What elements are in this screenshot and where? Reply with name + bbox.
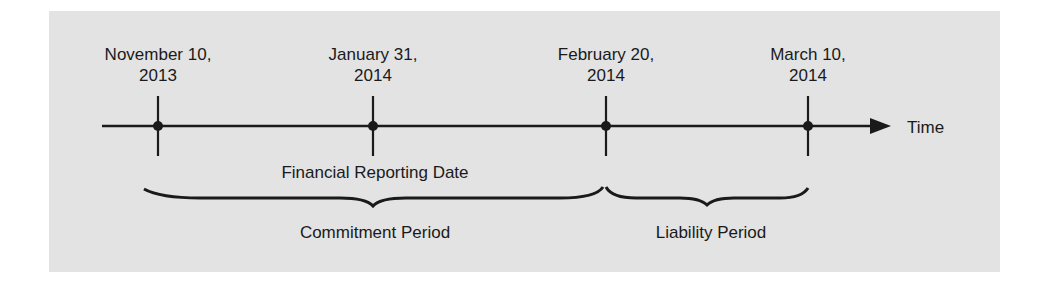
axis-label-time: Time — [907, 117, 944, 138]
tick-jan-31-2014 — [368, 96, 378, 156]
date-label: November 10, 2013 — [105, 44, 212, 86]
date-line2: 2014 — [558, 65, 654, 86]
arrow-right-icon — [870, 118, 891, 134]
date-line1: January 31, — [329, 44, 418, 65]
tick-mar-10-2014 — [803, 96, 813, 156]
liability-period-label: Liability Period — [656, 222, 767, 243]
date-line2: 2014 — [770, 65, 846, 86]
date-line1: March 10, — [770, 44, 846, 65]
date-line1: February 20, — [558, 44, 654, 65]
commitment-period-brace — [144, 187, 603, 206]
liability-period-brace — [606, 187, 808, 205]
tick-nov-10-2013 — [153, 96, 163, 156]
date-line2: 2014 — [329, 65, 418, 86]
date-label: March 10, 2014 — [770, 44, 846, 86]
date-label: January 31, 2014 — [329, 44, 418, 86]
date-line1: November 10, — [105, 44, 212, 65]
timeline-graphic — [0, 0, 1045, 282]
date-line2: 2013 — [105, 65, 212, 86]
commitment-period-label: Commitment Period — [300, 222, 450, 243]
date-label: February 20, 2014 — [558, 44, 654, 86]
financial-reporting-date-label: Financial Reporting Date — [281, 162, 468, 183]
tick-feb-20-2014 — [601, 96, 611, 156]
